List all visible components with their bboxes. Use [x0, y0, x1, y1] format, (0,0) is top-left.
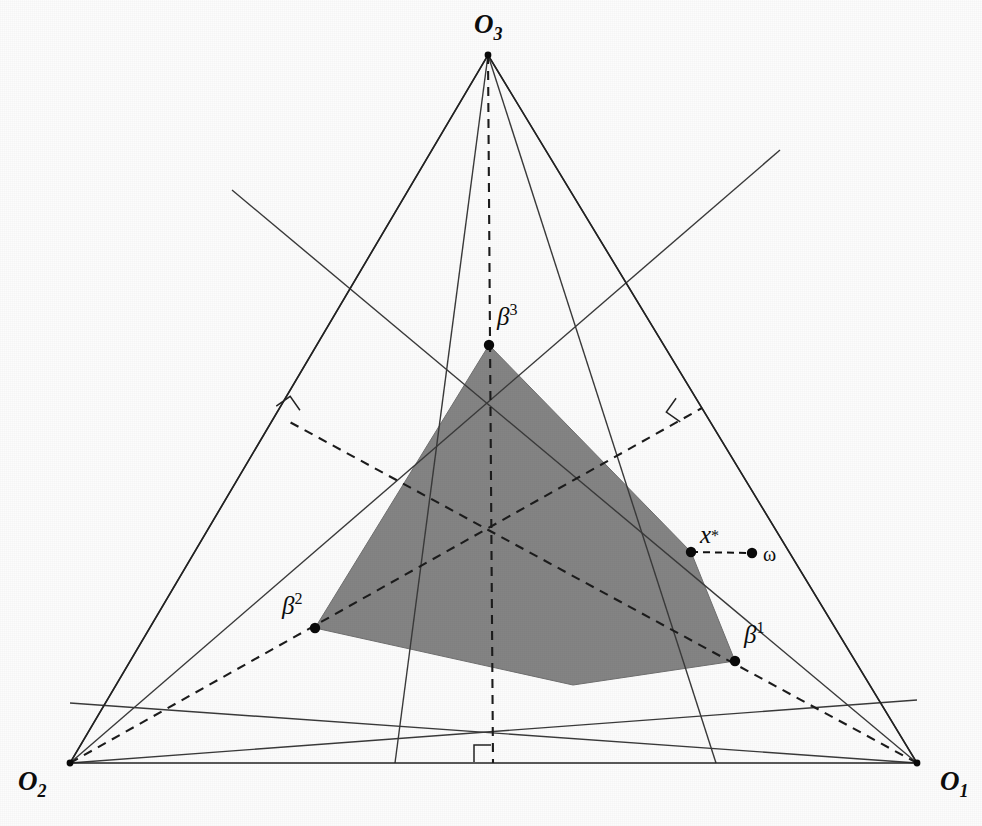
- right-angle-marker-bottom-square: [474, 745, 491, 762]
- point-beta-3-dot: [484, 340, 494, 350]
- corner-o2-label: O2: [18, 766, 47, 801]
- right-angle-marker-right-square: [666, 398, 690, 422]
- corner-o3-label-base: O: [474, 9, 494, 39]
- point-x-star-label-sup: *: [711, 527, 719, 544]
- figure-canvas: O1O2O3β1β2β3x*ω: [0, 0, 982, 826]
- right-angle-marker-right: [666, 398, 690, 422]
- point-omega-label: ω: [763, 543, 776, 565]
- point-x-star-dot: [686, 547, 696, 557]
- corner-o1-label-sub: 1: [960, 781, 969, 801]
- geometry-diagram: O1O2O3β1β2β3x*ω: [0, 0, 982, 826]
- point-beta-3-label-base: β: [496, 303, 510, 330]
- point-beta-2-label-base: β: [281, 592, 295, 619]
- corner-o3-dot: [485, 52, 492, 59]
- corner-o1-label-base: O: [940, 766, 960, 796]
- point-omega-label-base: ω: [763, 543, 776, 565]
- corner-o2-label-base: O: [18, 766, 38, 796]
- chord-o2-inner-upper: [70, 150, 780, 763]
- point-omega-dot: [747, 548, 757, 558]
- point-beta-1-label-base: β: [743, 621, 757, 648]
- corner-o3-label-sub: 3: [493, 24, 503, 44]
- point-x-star-label-base: x: [699, 521, 711, 548]
- equilibrium-region-polygon: [315, 345, 735, 685]
- corner-o3-label: O3: [474, 9, 503, 44]
- corner-o2-dot: [67, 760, 74, 767]
- point-beta-1-label: β1: [743, 619, 764, 648]
- point-beta-2-label: β2: [281, 590, 302, 619]
- point-x-star-label: x*: [699, 521, 719, 548]
- omega-connector-line: [691, 552, 752, 553]
- point-beta-2-dot: [310, 623, 320, 633]
- corner-o1-label: O1: [940, 766, 969, 801]
- point-beta-1-label-sup: 1: [756, 619, 764, 636]
- point-beta-1-dot: [730, 656, 740, 666]
- point-beta-3-label-sup: 3: [509, 301, 517, 318]
- corner-o2-label-sub: 2: [37, 781, 47, 801]
- corner-o1-dot: [914, 760, 921, 767]
- point-beta-3-label: β3: [496, 301, 517, 330]
- point-beta-2-label-sup: 2: [294, 590, 302, 607]
- right-angle-marker-bottom: [474, 745, 491, 762]
